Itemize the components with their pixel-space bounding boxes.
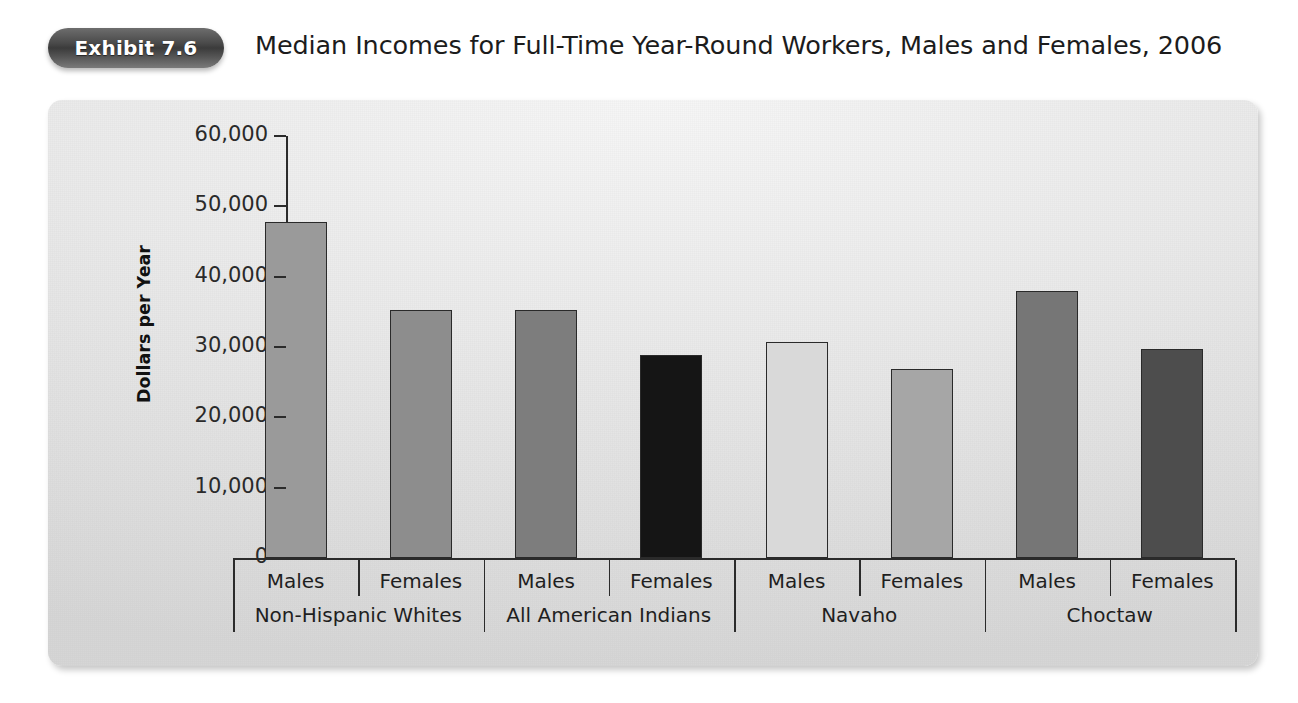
axis-sub-divider	[1110, 560, 1112, 596]
axis-sublabel-females: Females	[609, 566, 734, 596]
chart-title: Median Incomes for Full-Time Year-Round …	[255, 30, 1222, 60]
y-axis-tick	[274, 416, 286, 418]
axis-group-label: Choctaw	[985, 600, 1236, 630]
axis-sublabel-females: Females	[1110, 566, 1235, 596]
axis-sublabel-males: Males	[484, 566, 609, 596]
y-axis-tick	[274, 276, 286, 278]
axis-sublabel-females: Females	[358, 566, 483, 596]
axis-group-divider	[1235, 560, 1237, 632]
axis-group-label: Navaho	[734, 600, 985, 630]
y-axis-tick-label: 0	[68, 544, 268, 568]
y-axis-title: Dollars per Year	[134, 204, 154, 444]
axis-group-divider	[734, 560, 736, 632]
exhibit-badge: Exhibit 7.6	[48, 28, 224, 68]
bar-all-american-indians-males	[515, 310, 577, 558]
axis-sublabel-females: Females	[859, 566, 984, 596]
y-axis-tick	[274, 557, 286, 559]
axis-sub-divider	[859, 560, 861, 596]
y-axis-tick	[274, 346, 286, 348]
y-axis-tick-label: 50,000	[68, 192, 268, 216]
axis-sublabel-males: Males	[233, 566, 358, 596]
bar-navaho-males	[766, 342, 828, 558]
plot-area: 60,00050,00040,00030,00020,00010,0000 Do…	[48, 100, 1258, 666]
bar-navaho-females	[891, 369, 953, 558]
y-axis-tick-label: 60,000	[68, 122, 268, 146]
y-axis-tick	[274, 487, 286, 489]
axis-group-divider	[985, 560, 987, 632]
axis-group-label: Non-Hispanic Whites	[233, 600, 484, 630]
axis-group-divider	[484, 560, 486, 632]
axis-group-label: All American Indians	[484, 600, 735, 630]
axis-group-divider	[233, 560, 235, 632]
axis-sublabel-males: Males	[734, 566, 859, 596]
axis-sub-divider	[358, 560, 360, 596]
y-axis-tick	[274, 135, 286, 137]
axis-sublabel-males: Males	[985, 566, 1110, 596]
exhibit-badge-label: Exhibit 7.6	[75, 36, 198, 60]
y-axis-tick-label: 10,000	[68, 474, 268, 498]
bar-choctaw-females	[1141, 349, 1203, 558]
y-axis-tick	[274, 205, 286, 207]
bar-non-hispanic-whites-females	[390, 310, 452, 558]
y-axis-tick-label: 20,000	[68, 403, 268, 427]
bar-all-american-indians-females	[640, 355, 702, 558]
bar-choctaw-males	[1016, 291, 1078, 558]
axis-sub-divider	[609, 560, 611, 596]
chart-panel: 60,00050,00040,00030,00020,00010,0000 Do…	[48, 100, 1258, 666]
y-axis-tick-label: 30,000	[68, 333, 268, 357]
y-axis-tick-label: 40,000	[68, 263, 268, 287]
exhibit-header: Exhibit 7.6 Median Incomes for Full-Time…	[0, 0, 1298, 92]
bar-non-hispanic-whites-males	[265, 222, 327, 558]
